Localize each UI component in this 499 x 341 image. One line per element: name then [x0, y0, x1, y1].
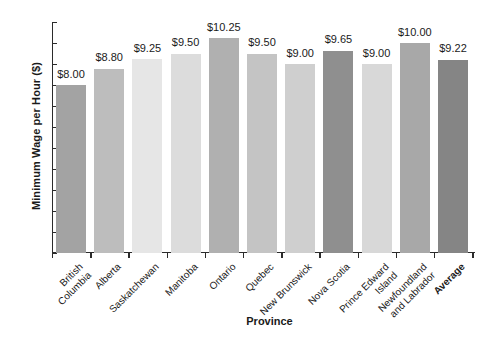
- x-tick-mark: [90, 253, 91, 258]
- x-tick-mark: [358, 253, 359, 258]
- bar[interactable]: [209, 38, 239, 253]
- x-tick-mark: [281, 253, 282, 258]
- bar-value-label: $10.25: [189, 21, 259, 33]
- bar[interactable]: [247, 54, 277, 253]
- x-category-label-line: Ontario: [207, 261, 238, 292]
- x-category-label-line: Manitoba: [163, 261, 200, 298]
- x-tick-mark: [243, 253, 244, 258]
- x-tick-mark: [472, 253, 473, 258]
- bar[interactable]: [94, 69, 124, 253]
- bar[interactable]: [400, 43, 430, 253]
- y-tick-mark: [52, 43, 57, 44]
- bar[interactable]: [285, 64, 315, 253]
- x-tick-mark: [52, 253, 53, 258]
- bar-value-label: $9.50: [151, 36, 221, 48]
- bar-value-label: $9.22: [418, 42, 488, 54]
- x-tick-mark: [319, 253, 320, 258]
- bar-value-label: $9.00: [265, 47, 335, 59]
- x-tick-mark: [167, 253, 168, 258]
- x-category-label: Manitoba: [163, 261, 200, 298]
- x-tick-mark: [434, 253, 435, 258]
- x-category-label-line: Alberta: [93, 261, 124, 292]
- x-tick-mark: [396, 253, 397, 258]
- bar[interactable]: [171, 54, 201, 253]
- bar-chart: Minimum Wage per Hour ($) 11109876543210…: [0, 0, 499, 341]
- x-tick-mark: [128, 253, 129, 258]
- bar[interactable]: [362, 64, 392, 253]
- x-axis-title: Province: [0, 315, 499, 327]
- bar-value-label: $10.00: [380, 26, 450, 38]
- x-category-label: BritishColumbia: [47, 261, 93, 307]
- bar-value-label: $9.00: [342, 47, 412, 59]
- bar[interactable]: [132, 59, 162, 253]
- y-tick-mark: [52, 64, 57, 65]
- x-category-label-line: Average: [431, 261, 467, 297]
- x-category-label: Average: [431, 261, 467, 297]
- y-axis-line: [52, 22, 53, 253]
- x-category-label: Alberta: [93, 261, 124, 292]
- bar[interactable]: [323, 51, 353, 253]
- bar[interactable]: [438, 60, 468, 253]
- y-axis-title: Minimum Wage per Hour ($): [30, 16, 42, 256]
- x-category-label: Quebec: [243, 261, 276, 294]
- x-category-label-line: Quebec: [243, 261, 276, 294]
- bar[interactable]: [56, 85, 86, 253]
- bar-value-label: $9.65: [303, 33, 373, 45]
- y-tick-mark: [52, 22, 57, 23]
- x-tick-mark: [205, 253, 206, 258]
- x-category-label: Ontario: [207, 261, 238, 292]
- bar-value-label: $8.00: [36, 68, 106, 80]
